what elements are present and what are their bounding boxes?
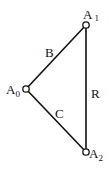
- node-label-a0: A0: [6, 82, 20, 99]
- node-label-a2-sub: 2: [98, 153, 103, 163]
- edge-label-b: B: [45, 45, 54, 60]
- edge-label-c: C: [55, 106, 64, 121]
- node-label-a1-sub: 1: [94, 13, 99, 23]
- node-a1: [83, 22, 89, 28]
- edge-b-a0-a1: [26, 25, 86, 89]
- node-label-a0-sub: 0: [15, 89, 20, 99]
- node-a0: [23, 86, 29, 92]
- node-label-a1-base: A: [83, 7, 93, 22]
- triangle-graph-diagram: A1 A0 A2 B C R: [0, 0, 109, 171]
- node-label-a2: A2: [89, 146, 103, 163]
- edge-label-r: R: [91, 86, 100, 101]
- node-label-a1: A1: [83, 7, 99, 23]
